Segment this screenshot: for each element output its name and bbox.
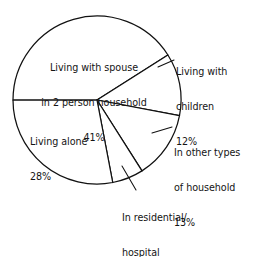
slice-label-children-line1: Living with: [176, 66, 252, 78]
pie-chart-figure: Living with spouse in 2 person household…: [0, 0, 259, 257]
slice-label-other-household-line1: In other types: [174, 147, 256, 159]
slice-label-living-alone-value: 28%: [30, 171, 116, 183]
slice-label-spouse-line1: Living with spouse: [33, 62, 155, 74]
slice-label-residential: In residential/ hospital accommodation 6…: [122, 189, 232, 257]
slice-label-spouse-line2: in 2 person household: [33, 97, 155, 109]
slice-label-living-alone: Living alone 28%: [30, 113, 116, 206]
slice-label-living-alone-line1: Living alone: [30, 136, 116, 148]
slice-label-children-line2: children: [176, 101, 252, 113]
slice-label-residential-line1: In residential/: [122, 212, 232, 224]
slice-label-residential-line2: hospital: [122, 247, 232, 257]
